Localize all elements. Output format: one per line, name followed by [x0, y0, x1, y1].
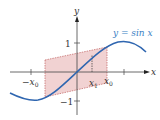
sine-curve	[10, 41, 146, 100]
y-tick-label-neg: −1	[60, 97, 73, 107]
x-axis-label: x	[151, 67, 156, 77]
x-axis-arrow-icon	[144, 70, 150, 74]
y-tick-label-pos: 1	[65, 39, 71, 49]
label-neg-x0: −x0	[22, 77, 39, 88]
sine-diagram: y x y = sin x 1 −1 −x0 x1 x0	[0, 0, 160, 120]
y-axis-label: y	[73, 6, 80, 16]
y-axis-arrow-icon	[75, 16, 79, 22]
label-x0: x0	[104, 76, 113, 87]
curve-label: y = sin x	[112, 28, 153, 38]
